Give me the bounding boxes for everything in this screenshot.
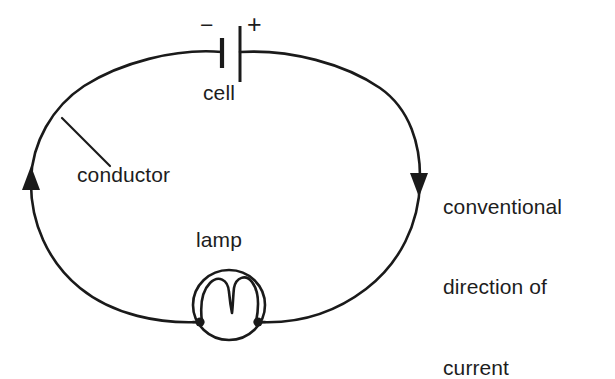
lamp-label: lamp	[196, 229, 242, 250]
conductor-wire-right-arc	[240, 52, 420, 323]
conventional-current-label-line3: current	[443, 355, 562, 379]
lamp-junction-dot-left	[195, 317, 204, 326]
cell-label: cell	[203, 82, 235, 103]
conductor-label: conductor	[77, 164, 170, 185]
conductor-wire-left-arc	[31, 51, 222, 322]
cell-positive-terminal-label: +	[247, 12, 262, 38]
conventional-current-label: conventional direction of current	[443, 140, 562, 379]
lamp-filament	[201, 277, 258, 322]
current-arrow-left-icon	[22, 166, 40, 190]
current-arrow-right-icon	[410, 173, 428, 197]
conductor-leader-line	[62, 118, 110, 166]
cell-negative-terminal-label: −	[200, 14, 214, 37]
lamp-envelope	[193, 270, 265, 340]
conventional-current-label-line1: conventional	[443, 194, 562, 221]
conventional-current-label-line2: direction of	[443, 274, 562, 301]
lamp-junction-dot-right	[253, 317, 262, 326]
